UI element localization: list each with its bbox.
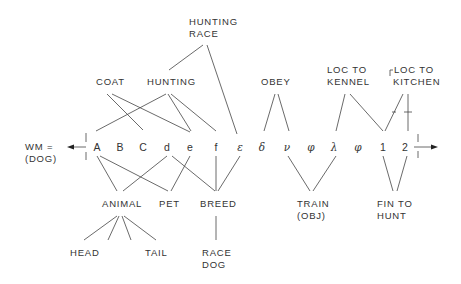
symbol-1: 1	[376, 141, 390, 153]
train-label-2: (OBJ)	[297, 210, 326, 222]
head-label: HEAD	[70, 247, 100, 259]
obey-label: OBEY	[261, 76, 291, 88]
symbol-C: C	[136, 141, 150, 153]
symbol-epsilon: ε	[233, 141, 247, 153]
dog-label: (DOG)	[25, 153, 57, 165]
breed-label: BREED	[200, 198, 237, 210]
symbol-delta: δ	[255, 141, 269, 153]
symbol-phi-2: φ	[351, 141, 365, 153]
symbol-B: B	[113, 141, 127, 153]
fin-to-hunt-label-1: FIN TO	[377, 198, 413, 210]
race-dog-label-2: DOG	[202, 259, 226, 271]
fin-to-hunt-label-2: HUNT	[377, 210, 407, 222]
loc-to-kennel-label-2: KENNEL	[327, 76, 370, 88]
symbol-2: 2	[398, 141, 412, 153]
hunting-race-label-1: HUNTING	[189, 16, 238, 28]
symbol-A: A	[90, 141, 104, 153]
diagram-lines	[0, 0, 461, 284]
symbol-e: e	[183, 141, 197, 153]
loc-to-kitchen-label-2: KITCHEN	[393, 76, 440, 88]
coat-label: COAT	[96, 76, 125, 88]
loc-to-kitchen-label-1: LOC TO	[394, 64, 434, 76]
race-dog-label-1: RACE	[202, 247, 232, 259]
animal-label: ANIMAL	[102, 198, 142, 210]
train-label-1: TRAIN	[297, 198, 330, 210]
symbol-lambda: λ	[327, 141, 341, 153]
wm-label: WM =	[25, 141, 53, 153]
symbol-nu: ν	[280, 141, 294, 153]
loc-to-kennel-label-1: LOC TO	[327, 64, 367, 76]
hunting-label: HUNTING	[147, 76, 196, 88]
symbol-f: f	[209, 141, 223, 153]
symbol-d: d	[160, 141, 174, 153]
symbol-phi-1: φ	[304, 141, 318, 153]
pet-label: PET	[159, 198, 180, 210]
tail-label: TAIL	[145, 247, 168, 259]
hunting-race-label-2: RACE	[189, 28, 219, 40]
